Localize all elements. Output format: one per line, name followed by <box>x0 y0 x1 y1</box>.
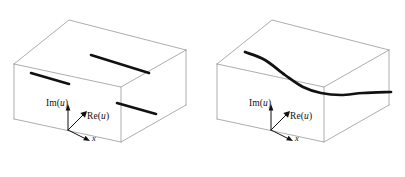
x-axis-arrowhead <box>286 136 293 141</box>
im-axis-label: Im(u) <box>46 99 68 109</box>
x-axis-label: x <box>92 134 96 143</box>
box-wireframe <box>14 20 186 142</box>
re-axis-line <box>271 114 287 130</box>
solution-s-curve <box>245 52 391 95</box>
x-axis-label: x <box>295 134 299 143</box>
re-axis-line <box>68 114 84 130</box>
box-wireframe <box>217 20 389 142</box>
solution-segment-front <box>117 103 156 114</box>
figure-container: Im(u) Re(u) x <box>0 0 405 177</box>
x-axis-line <box>68 130 86 139</box>
solution-curve-group <box>245 52 391 95</box>
axis-triad <box>269 104 293 141</box>
left-panel-canvas <box>0 0 202 177</box>
real-solution-panel: Im(u) Re(u) x <box>0 0 202 177</box>
x-axis-arrowhead <box>83 136 90 141</box>
im-axis-label: Im(u) <box>249 99 271 109</box>
x-axis-line <box>271 130 289 139</box>
re-axis-label: Re(u) <box>290 112 312 122</box>
axis-triad <box>66 104 90 141</box>
box-edge-front-top <box>217 50 389 87</box>
right-panel-canvas <box>203 0 405 177</box>
re-axis-label: Re(u) <box>87 112 109 122</box>
complex-solution-panel: Im(u) Re(u) x <box>203 0 405 177</box>
solution-segment-top <box>91 55 149 73</box>
box-edge-front-top <box>14 50 186 87</box>
box-edge-back-top <box>217 20 389 64</box>
